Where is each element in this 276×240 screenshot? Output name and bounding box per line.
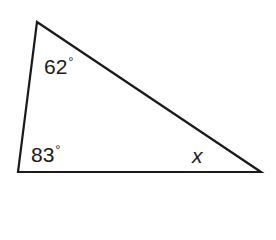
degree-symbol: °	[68, 54, 73, 69]
angle-value-top: 62	[44, 55, 67, 78]
angle-label-bottom-right: x	[192, 145, 203, 166]
angle-variable-x: x	[192, 144, 203, 167]
angle-label-bottom-left: 83°	[31, 144, 61, 165]
degree-symbol: °	[55, 142, 60, 157]
angle-label-top: 62°	[44, 56, 74, 77]
angle-value-bottom-left: 83	[31, 143, 54, 166]
